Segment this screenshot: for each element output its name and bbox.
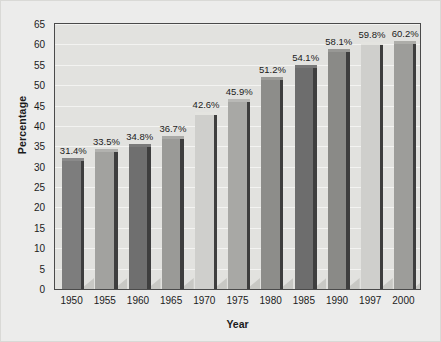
bar-side-face [247, 102, 251, 289]
bar-top-face [361, 42, 383, 45]
bar-face [62, 161, 81, 289]
y-tick-label: 45 [1, 100, 45, 111]
bar-side-face [346, 52, 350, 289]
bar [261, 77, 283, 289]
bar-value-label: 36.7% [159, 123, 186, 134]
bar-top-face [295, 65, 317, 68]
bar-top-face [129, 144, 151, 147]
bar-value-label: 45.9% [226, 86, 253, 97]
bar [328, 49, 350, 289]
bar-face [195, 115, 214, 289]
y-tick-label: 65 [1, 19, 45, 30]
bar-face [228, 102, 247, 289]
bar-face [95, 152, 114, 289]
bar [195, 112, 217, 289]
bar-top-face [394, 41, 416, 44]
gridline [55, 24, 420, 25]
y-tick-label: 55 [1, 59, 45, 70]
bar [62, 158, 84, 289]
bar-top-face [328, 49, 350, 52]
y-tick-label: 10 [1, 243, 45, 254]
bar [95, 149, 117, 289]
bar-face [361, 45, 380, 289]
bar-top-face [162, 136, 184, 139]
x-tick-label: 1997 [359, 295, 381, 306]
bar-top-face [95, 149, 117, 152]
bar-side-face [214, 115, 218, 289]
x-tick-label: 1950 [60, 295, 82, 306]
bar-top-face [62, 158, 84, 161]
bar-side-face [180, 139, 184, 289]
y-tick-label: 35 [1, 141, 45, 152]
bar-face [328, 52, 347, 289]
bar-value-label: 33.5% [93, 136, 120, 147]
x-tick-label: 1990 [326, 295, 348, 306]
bar [129, 144, 151, 289]
bar-face [129, 147, 148, 289]
y-tick-label: 0 [1, 284, 45, 295]
bar-side-face [114, 152, 118, 289]
y-tick-label: 15 [1, 222, 45, 233]
bar-side-face [280, 80, 284, 289]
y-tick-label: 60 [1, 39, 45, 50]
bar-side-face [380, 45, 384, 289]
bar-value-label: 59.8% [359, 29, 386, 40]
x-tick-label: 1980 [260, 295, 282, 306]
bar [394, 41, 416, 289]
bar-top-face [228, 99, 250, 102]
bar-face [261, 80, 280, 289]
bar-value-label: 34.8% [126, 131, 153, 142]
x-tick-label: 1985 [293, 295, 315, 306]
y-tick-label: 20 [1, 202, 45, 213]
x-tick-label: 1975 [226, 295, 248, 306]
bar-value-label: 60.2% [392, 28, 419, 39]
bar-side-face [81, 161, 85, 289]
x-tick-label: 1955 [94, 295, 116, 306]
y-tick-label: 40 [1, 120, 45, 131]
x-tick-label: 1970 [193, 295, 215, 306]
bar-face [394, 44, 413, 289]
y-tick-label: 30 [1, 161, 45, 172]
y-tick-label: 50 [1, 80, 45, 91]
bar-value-label: 58.1% [325, 36, 352, 47]
bar-value-label: 42.6% [193, 99, 220, 110]
bar-side-face [413, 44, 417, 289]
chart-figure: Percentage 05101520253035404550556065 31… [0, 0, 441, 342]
x-axis-title: Year [54, 318, 421, 330]
x-tick-label: 2000 [392, 295, 414, 306]
bar-value-label: 31.4% [60, 145, 87, 156]
x-tick-label: 1965 [160, 295, 182, 306]
plot-area: 31.4%33.5%34.8%36.7%42.6%45.9%51.2%54.1%… [54, 23, 421, 290]
bar-top-face [195, 112, 217, 115]
bar [162, 136, 184, 289]
y-axis-tick-labels: 05101520253035404550556065 [1, 1, 49, 342]
bar-side-face [147, 147, 151, 289]
bar [228, 99, 250, 289]
bar-face [295, 68, 314, 289]
bar-top-face [261, 77, 283, 80]
bar-side-face [313, 68, 317, 289]
bar-value-label: 51.2% [259, 64, 286, 75]
y-tick-label: 5 [1, 263, 45, 274]
x-tick-label: 1960 [127, 295, 149, 306]
bar-value-label: 54.1% [292, 52, 319, 63]
bar [295, 65, 317, 289]
y-tick-label: 25 [1, 182, 45, 193]
x-axis-tick-labels: 1950195519601965197019751980198519901997… [54, 295, 421, 311]
bar-face [162, 139, 181, 289]
bar [361, 42, 383, 289]
